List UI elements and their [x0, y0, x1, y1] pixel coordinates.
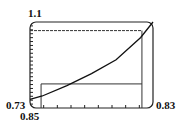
data-curve	[30, 22, 153, 99]
y-max-label: 1.1	[28, 8, 42, 19]
y-min-label: 0.85	[20, 111, 39, 122]
reference-lines	[30, 31, 142, 108]
plot-frame	[30, 22, 153, 108]
chart-canvas	[0, 0, 180, 125]
x-max-label: 0.83	[156, 100, 175, 111]
axis-ticks	[30, 26, 139, 108]
